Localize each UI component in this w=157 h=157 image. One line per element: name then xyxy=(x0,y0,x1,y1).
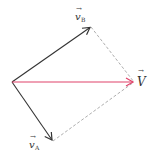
label-v-letter: V xyxy=(137,75,147,89)
label-va: → v A xyxy=(29,133,40,151)
label-va-subscript: A xyxy=(34,144,40,151)
label-vb: → v B xyxy=(75,5,86,23)
label-v: → V xyxy=(137,67,147,89)
vector-va-arrow xyxy=(12,82,52,140)
vector-vb-arrow xyxy=(12,28,90,83)
construction-line-b-to-v xyxy=(91,27,134,82)
label-vb-subscript: B xyxy=(81,16,86,23)
construction-line-a-to-v xyxy=(53,82,134,141)
vector-diagram: → v B → V → v A xyxy=(0,0,157,157)
arrow-symbol: → xyxy=(138,67,144,75)
